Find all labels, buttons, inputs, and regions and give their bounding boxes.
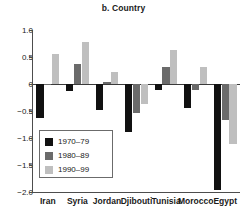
bar [74, 64, 81, 84]
x-axis-category-label: Jordan [93, 196, 121, 206]
legend-swatch-icon [45, 152, 53, 160]
x-axis-line [32, 192, 240, 193]
chart-legend: 1970–791980–891990–99 [39, 130, 113, 178]
bar [52, 54, 59, 84]
bar [96, 84, 103, 110]
bar [170, 50, 177, 84]
x-axis-category-label: Morocco [178, 196, 213, 206]
bar-group [155, 30, 178, 192]
bar [111, 72, 118, 84]
bar [66, 84, 73, 91]
legend-item: 1980–89 [45, 149, 108, 162]
bar [192, 84, 199, 90]
bar [133, 84, 140, 113]
bar [184, 84, 191, 108]
bar [214, 84, 221, 190]
legend-label: 1980–89 [58, 151, 89, 160]
bar-group [214, 30, 237, 192]
bar [229, 84, 236, 144]
legend-item: 1970–79 [45, 135, 108, 148]
bar [141, 84, 148, 104]
bar [200, 67, 207, 84]
x-axis-category-label: Syria [67, 196, 88, 206]
legend-label: 1990–99 [58, 165, 89, 174]
legend-label: 1970–79 [58, 137, 89, 146]
bar [44, 84, 51, 85]
x-axis-category-label: Djibouti [121, 196, 153, 206]
x-axis-category-label: Iran [40, 196, 56, 206]
legend-item: 1990–99 [45, 163, 108, 176]
bar [36, 84, 43, 118]
bar [82, 42, 89, 84]
y-axis-ticks: 1.00.50−0.5−1.0−1.5−2.0 [0, 0, 33, 210]
bar [162, 67, 169, 84]
chart-figure: b. Country 1.00.50−0.5−1.0−1.5−2.0 1970–… [0, 0, 247, 210]
bar [222, 84, 229, 120]
bar [125, 84, 132, 132]
bar [103, 82, 110, 84]
bar-group [184, 30, 207, 192]
x-axis-category-label: Tunisia [152, 196, 181, 206]
legend-swatch-icon [45, 138, 53, 146]
bar-group [125, 30, 148, 192]
chart-title: b. Country [0, 3, 247, 13]
legend-swatch-icon [45, 166, 53, 174]
bar [155, 84, 162, 90]
x-axis-category-label: Egypt [213, 196, 237, 206]
